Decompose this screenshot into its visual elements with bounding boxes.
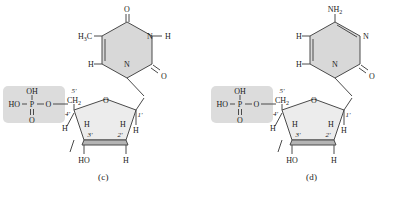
sugar-3prime-label-d: 3' <box>295 131 302 139</box>
sugar-h-4prime-label-d: H <box>270 124 276 133</box>
phosphate-double-o-label-d: O <box>237 116 243 125</box>
cytosine-n1-label-d: N <box>332 60 338 69</box>
figure-canvas: OH HO P O O CH2 5' O 4' 3' 2' 1' H H <box>0 0 415 197</box>
sugar-ring-o-label-d: O <box>311 96 317 105</box>
caption-d: (d) <box>306 172 317 182</box>
sugar-1prime-label-c: 1' <box>138 111 144 119</box>
thymine-methyl-label-c: H3C <box>78 32 92 42</box>
phosphate-p-label-d: P <box>238 100 243 109</box>
phosphate-oh-label-c: OH <box>26 87 38 96</box>
phosphate-p-label-c: P <box>30 100 35 109</box>
sugar-3prime-label-c: 3' <box>87 131 94 139</box>
cytosine-ring-h-upper-label-d: H <box>296 32 302 41</box>
cytosine-ring-d <box>310 22 360 78</box>
thymine-nh-h-label-c: H <box>165 32 171 41</box>
sugar-2prime-h-label-d: H <box>331 156 337 165</box>
sugar-1prime-label-d: 1' <box>346 111 352 119</box>
sugar-4prime-label-d: 4' <box>273 110 279 118</box>
sugar-h-1prime-label-c: H <box>133 126 139 135</box>
thymine-right-o-label-c: O <box>161 72 167 81</box>
thymine-ring-h-label-c: H <box>88 60 94 69</box>
sugar-3prime-oh-label-d: HO <box>286 156 298 165</box>
sugar-h-1prime-label-d: H <box>341 126 347 135</box>
nucleotide-structures-svg: OH HO P O O CH2 5' O 4' 3' 2' 1' H H <box>0 0 415 197</box>
cytosine-ring-h-lower-label-d: H <box>296 60 302 69</box>
structure-d: OH HO P O O CH2 5' O 4' 3' 2' 1' H H H H… <box>211 5 375 165</box>
cytosine-right-o-label-d: O <box>369 72 375 81</box>
structure-c: OH HO P O O CH2 5' O 4' 3' 2' 1' H H <box>3 5 171 165</box>
phosphate-double-o-label-c: O <box>29 116 35 125</box>
sugar-h-4prime-label-c: H <box>62 124 68 133</box>
phosphate-ho-label-d: HO <box>216 100 228 109</box>
sugar-front-edge-c <box>82 140 128 145</box>
phosphate-link-o-label-d: O <box>254 100 260 109</box>
phosphate-link-o-label-c: O <box>46 100 52 109</box>
sugar-2prime-label-c: 2' <box>118 131 124 139</box>
thymine-top-o-label-c: O <box>124 5 130 14</box>
sugar-3prime-oh-label-c: HO <box>78 156 90 165</box>
sugar-ch2-label-d: CH2 <box>275 96 289 106</box>
thymine-n1-label-c: N <box>124 60 130 69</box>
sugar-4prime-label-c: 4' <box>65 110 71 118</box>
cytosine-n3-label-d: N <box>363 32 369 41</box>
caption-c: (c) <box>98 172 109 182</box>
thymine-n3-label-c: N <box>147 32 153 41</box>
sugar-5prime-label-d: 5' <box>280 87 286 95</box>
sugar-h-2prime-label-c: H <box>120 120 126 129</box>
sugar-5prime-label-c: 5' <box>72 87 78 95</box>
phosphate-oh-label-d: OH <box>234 87 246 96</box>
thymine-ring-c <box>102 22 152 78</box>
sugar-ring-o-label-c: O <box>103 96 109 105</box>
cytosine-amino-label-d: NH2 <box>328 5 343 15</box>
sugar-front-edge-d <box>290 140 336 145</box>
sugar-ch2-label-c: CH2 <box>67 96 81 106</box>
sugar-2prime-h-label-c: H <box>123 156 129 165</box>
sugar-h-3prime-label-d: H <box>292 120 298 129</box>
sugar-h-2prime-label-d: H <box>328 120 334 129</box>
sugar-h-3prime-label-c: H <box>84 120 90 129</box>
sugar-2prime-label-d: 2' <box>326 131 332 139</box>
phosphate-ho-label-c: HO <box>8 100 20 109</box>
